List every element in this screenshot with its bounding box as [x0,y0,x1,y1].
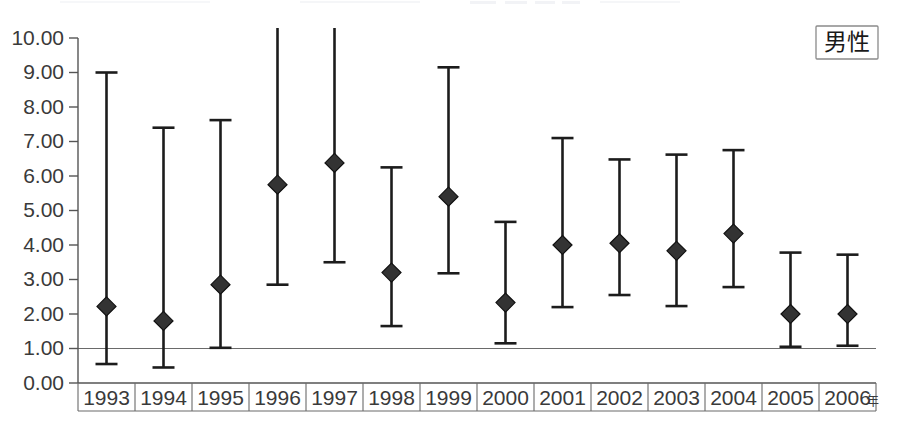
y-tick-label: 1.00 [23,336,64,359]
data-point-marker [268,175,287,194]
data-point-marker [382,263,401,282]
y-tick-label: 6.00 [23,164,64,187]
x-tick-label: 2006 [824,386,871,409]
x-tick-label: 2000 [482,386,529,409]
error-bar-point [837,255,859,346]
data-point-marker [439,187,458,206]
y-axis-ticks [69,38,78,383]
data-point-marker [610,234,629,253]
error-bar-point [153,128,175,368]
scan-top-artifact [60,1,680,4]
error-bar-point [96,73,118,365]
error-bar-point [381,167,403,326]
data-point-marker [553,236,572,255]
chart-page: 10.009.008.007.006.005.004.003.002.001.0… [0,0,898,429]
data-point-marker [211,275,230,294]
error-bar-point [666,155,688,306]
x-tick-label: 1995 [197,386,244,409]
data-point-marker [667,241,686,260]
y-tick-label: 9.00 [23,60,64,83]
error-bar-point [438,67,460,273]
data-point-marker [325,153,344,172]
y-tick-label: 7.00 [23,129,64,152]
x-tick-label: 1999 [425,386,472,409]
error-bar-point [780,253,802,347]
error-bar-point [723,150,745,287]
error-bar-point [495,222,517,343]
data-point-marker [97,297,116,316]
x-tick-label: 1996 [254,386,301,409]
y-tick-label: 4.00 [23,233,64,256]
y-tick-label: 0.00 [23,371,64,394]
y-tick-label: 2.00 [23,302,64,325]
y-axis-tick-labels: 10.009.008.007.006.005.004.003.002.001.0… [11,26,64,394]
x-tick-label: 2003 [653,386,700,409]
x-tick-label: 1997 [311,386,358,409]
x-tick-label: 2004 [710,386,757,409]
y-tick-label: 5.00 [23,198,64,221]
legend-label: 男性 [824,29,870,55]
error-bar-point [552,138,574,307]
data-point-marker [781,305,800,324]
series-male [96,28,859,367]
data-point-marker [496,293,515,312]
error-bar-chart: 10.009.008.007.006.005.004.003.002.001.0… [0,0,898,429]
x-axis-unit-label: 年 [866,393,879,408]
error-bar-point [324,28,346,262]
x-tick-label: 1993 [83,386,130,409]
y-tick-label: 8.00 [23,95,64,118]
axis-lines [78,38,876,383]
data-point-marker [724,224,743,243]
x-tick-label: 1998 [368,386,415,409]
error-bar-point [609,159,631,295]
y-tick-label: 3.00 [23,267,64,290]
x-tick-label: 2005 [767,386,814,409]
error-bar-point [210,120,232,348]
x-tick-label: 1994 [140,386,187,409]
x-tick-label: 2002 [596,386,643,409]
data-point-marker [838,305,857,324]
x-tick-label: 2001 [539,386,586,409]
data-point-marker [154,311,173,330]
error-bar-point [267,28,289,285]
y-tick-label: 10.00 [11,26,64,49]
legend: 男性 [816,26,878,59]
